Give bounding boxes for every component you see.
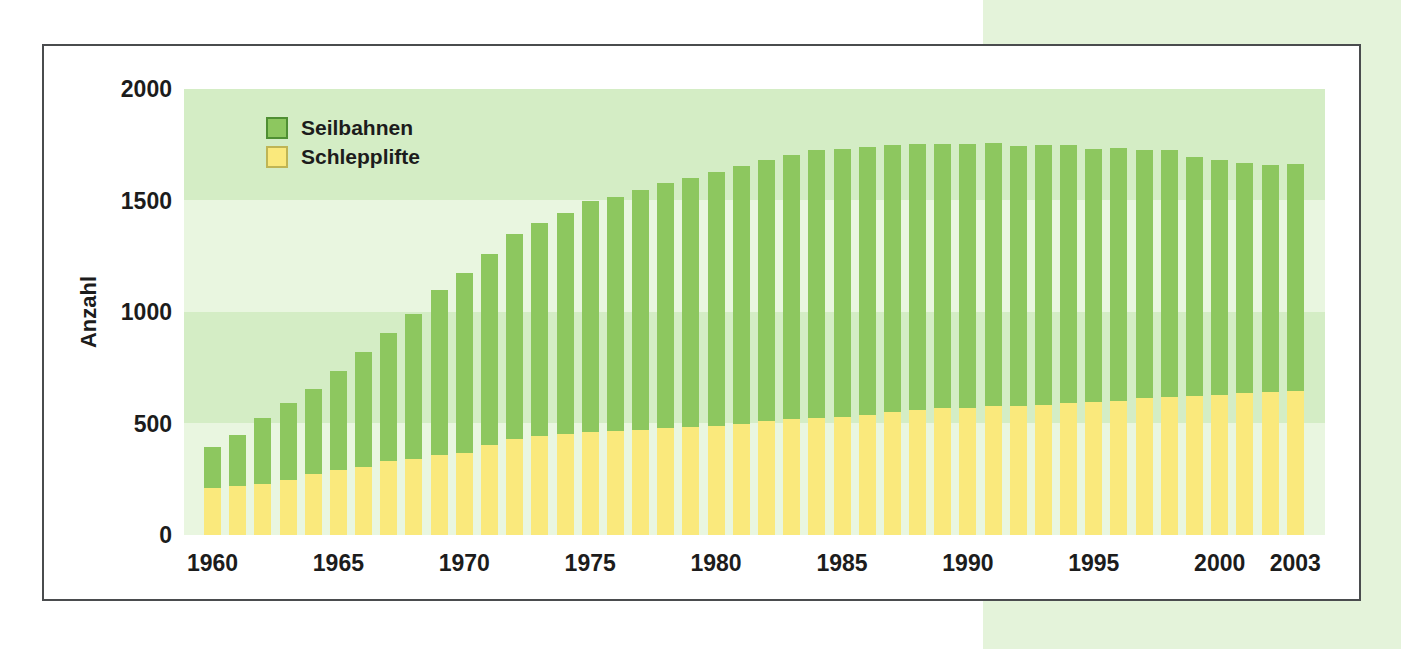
seilbahnen-segment bbox=[229, 435, 246, 486]
seilbahnen-segment bbox=[1211, 160, 1228, 394]
schlepplifte-segment bbox=[582, 432, 599, 535]
schlepplifte-segment bbox=[1060, 403, 1077, 535]
y-tick-0: 0 bbox=[96, 522, 172, 548]
bar-1960 bbox=[204, 447, 221, 535]
seilbahnen-segment bbox=[1236, 163, 1253, 394]
seilbahnen-segment bbox=[607, 197, 624, 431]
legend-item-schlepplifte: Schlepplifte bbox=[266, 146, 420, 168]
seilbahnen-segment bbox=[405, 314, 422, 459]
bar-1969 bbox=[431, 290, 448, 535]
seilbahnen-segment bbox=[1186, 157, 1203, 396]
bar-2003 bbox=[1287, 164, 1304, 535]
schlepplifte-segment bbox=[405, 459, 422, 535]
bar-1970 bbox=[456, 273, 473, 535]
schlepplifte-segment bbox=[1211, 395, 1228, 535]
schlepplifte-segment bbox=[909, 410, 926, 535]
bar-1995 bbox=[1085, 149, 1102, 535]
seilbahnen-segment bbox=[506, 234, 523, 439]
x-tick-1965: 1965 bbox=[290, 550, 386, 576]
bar-1985 bbox=[834, 149, 851, 535]
schlepplifte-segment bbox=[330, 470, 347, 535]
bar-1968 bbox=[405, 314, 422, 535]
schlepplifte-segment bbox=[531, 436, 548, 535]
bar-1988 bbox=[909, 144, 926, 535]
bar-1972 bbox=[506, 234, 523, 535]
bar-1971 bbox=[481, 254, 498, 535]
bar-1981 bbox=[733, 166, 750, 535]
seilbahnen-segment bbox=[1035, 145, 1052, 405]
bar-1993 bbox=[1035, 145, 1052, 535]
seilbahnen-segment bbox=[682, 178, 699, 427]
seilbahnen-segment bbox=[834, 149, 851, 417]
seilbahnen-segment bbox=[330, 371, 347, 470]
bar-1976 bbox=[607, 197, 624, 535]
chart-frame: Anzahl 0500100015002000 1960196519701975… bbox=[42, 44, 1361, 601]
seilbahnen-segment bbox=[1110, 148, 1127, 401]
seilbahnen-segment bbox=[1287, 164, 1304, 391]
schlepplifte-segment bbox=[985, 406, 1002, 535]
x-tick-1995: 1995 bbox=[1046, 550, 1142, 576]
schlepplifte-segment bbox=[783, 419, 800, 535]
seilbahnen-segment bbox=[531, 223, 548, 436]
schlepplifte-segment bbox=[934, 408, 951, 535]
bar-2001 bbox=[1236, 163, 1253, 535]
schlepplifte-segment bbox=[834, 417, 851, 535]
bar-1987 bbox=[884, 145, 901, 535]
seilbahnen-segment bbox=[884, 145, 901, 413]
schlepplifte-segment bbox=[1236, 393, 1253, 535]
schlepplifte-segment bbox=[1161, 397, 1178, 535]
seilbahnen-segment bbox=[280, 403, 297, 480]
seilbahnen-segment bbox=[783, 155, 800, 419]
schlepplifte-segment bbox=[229, 486, 246, 535]
y-tick-1500: 1500 bbox=[96, 188, 172, 214]
seilbahnen-segment bbox=[305, 389, 322, 474]
schlepplifte-segment bbox=[682, 427, 699, 535]
bar-1965 bbox=[330, 371, 347, 535]
bar-1983 bbox=[783, 155, 800, 535]
y-tick-500: 500 bbox=[96, 411, 172, 437]
seilbahnen-segment bbox=[582, 201, 599, 433]
seilbahnen-segment bbox=[1161, 150, 1178, 396]
bar-1961 bbox=[229, 435, 246, 535]
schlepplifte-segment bbox=[1035, 405, 1052, 535]
bar-1964 bbox=[305, 389, 322, 535]
bar-1984 bbox=[808, 150, 825, 535]
bar-1986 bbox=[859, 147, 876, 535]
x-tick-1970: 1970 bbox=[416, 550, 512, 576]
seilbahnen-segment bbox=[431, 290, 448, 455]
page: { "page": { "background_color": "#ffffff… bbox=[0, 0, 1401, 649]
schlepplifte-segment bbox=[506, 439, 523, 535]
schlepplifte-segment bbox=[254, 484, 271, 535]
legend-item-seilbahnen: Seilbahnen bbox=[266, 117, 420, 139]
schlepplifte-segment bbox=[1085, 402, 1102, 535]
seilbahnen-segment bbox=[380, 333, 397, 461]
bar-1990 bbox=[959, 144, 976, 535]
seilbahnen-segment bbox=[1262, 165, 1279, 392]
schlepplifte-segment bbox=[204, 488, 221, 535]
schlepplifte-swatch-icon bbox=[266, 146, 288, 168]
bar-1982 bbox=[758, 160, 775, 535]
x-tick-1985: 1985 bbox=[794, 550, 890, 576]
seilbahnen-segment bbox=[708, 172, 725, 426]
seilbahnen-segment bbox=[557, 213, 574, 434]
legend: Seilbahnen Schlepplifte bbox=[266, 117, 420, 168]
seilbahnen-segment bbox=[355, 352, 372, 467]
bar-1999 bbox=[1186, 157, 1203, 535]
seilbahnen-legend-label: Seilbahnen bbox=[301, 117, 413, 139]
bar-1963 bbox=[280, 403, 297, 535]
schlepplifte-segment bbox=[733, 424, 750, 536]
bar-1974 bbox=[557, 213, 574, 535]
seilbahnen-segment bbox=[934, 144, 951, 408]
seilbahnen-segment bbox=[808, 150, 825, 418]
schlepplifte-segment bbox=[1136, 398, 1153, 535]
bar-1967 bbox=[380, 333, 397, 535]
seilbahnen-segment bbox=[254, 418, 271, 484]
schlepplifte-segment bbox=[884, 412, 901, 535]
schlepplifte-segment bbox=[456, 453, 473, 536]
seilbahnen-segment bbox=[959, 144, 976, 408]
bar-1966 bbox=[355, 352, 372, 535]
bar-1989 bbox=[934, 144, 951, 535]
x-tick-1960: 1960 bbox=[165, 550, 261, 576]
bar-1996 bbox=[1110, 148, 1127, 535]
seilbahnen-segment bbox=[733, 166, 750, 424]
